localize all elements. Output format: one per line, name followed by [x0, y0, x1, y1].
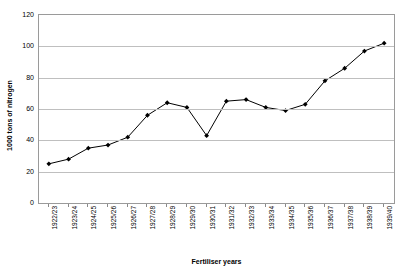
x-axis-tick-mark: [87, 204, 88, 207]
gridline: [39, 46, 394, 47]
x-axis-tick-label: 1926/27: [130, 206, 138, 254]
x-axis-tick-mark: [344, 204, 345, 207]
x-axis-tick-label: 1928/29: [169, 206, 177, 254]
x-axis-tick-label: 1938/39: [366, 206, 374, 254]
data-point-marker: [244, 97, 249, 102]
x-axis-tick-label: 1936/37: [327, 206, 335, 254]
x-axis-tick-mark: [363, 204, 364, 207]
x-axis-tick-mark: [304, 204, 305, 207]
x-axis-tick-label: 1934/35: [288, 206, 296, 254]
x-axis-title: Fertiliser years: [38, 258, 395, 265]
x-axis-tick-label: 1930/31: [209, 206, 217, 254]
gridline: [39, 140, 394, 141]
x-axis-tick-label: 1932/33: [248, 206, 256, 254]
series-line: [49, 43, 384, 164]
data-point-marker: [66, 157, 71, 162]
data-point-marker: [224, 99, 229, 104]
x-axis-tick-mark: [166, 204, 167, 207]
y-axis-tick-label: 20: [14, 167, 34, 174]
x-axis-tick-mark: [265, 204, 266, 207]
data-point-marker: [165, 100, 170, 105]
x-axis-tick-label: 1923/24: [71, 206, 79, 254]
x-axis-tick-mark: [146, 204, 147, 207]
data-point-marker: [86, 146, 91, 151]
x-axis-tick-label: 1935/36: [307, 206, 315, 254]
y-axis-title-text: 1000 tons of nitrogen: [6, 80, 13, 151]
plot-area: [38, 14, 395, 204]
y-axis-tick-label: 40: [14, 136, 34, 143]
gridline: [39, 172, 394, 173]
x-axis-tick-label: 1927/28: [149, 206, 157, 254]
x-axis-tick-label: 1937/38: [347, 206, 355, 254]
y-axis-tick-label: 120: [14, 11, 34, 18]
x-axis-tick-label: 1925/26: [110, 206, 118, 254]
data-point-marker: [382, 41, 387, 46]
x-axis-tick-mark: [324, 204, 325, 207]
data-point-marker: [46, 161, 51, 166]
x-axis-tick-mark: [68, 204, 69, 207]
x-axis-tick-mark: [107, 204, 108, 207]
y-axis-tick-label: 0: [14, 199, 34, 206]
gridline: [39, 109, 394, 110]
x-axis-tick-mark: [225, 204, 226, 207]
x-axis-tick-label: 1922/23: [51, 206, 59, 254]
x-axis-tick-mark: [383, 204, 384, 207]
x-axis-tick-labels: 1922/231923/241924/251925/261926/271927/…: [38, 208, 395, 256]
y-axis-tick-labels: 020406080100120: [16, 14, 36, 204]
x-axis-tick-mark: [285, 204, 286, 207]
x-axis-tick-mark: [48, 204, 49, 207]
y-axis-tick-label: 80: [14, 73, 34, 80]
x-axis-tick-label: 1939/40: [386, 206, 394, 254]
x-axis-tick-label: 1931/32: [228, 206, 236, 254]
x-axis-tick-mark: [127, 204, 128, 207]
x-axis-tick-label: 1929/30: [189, 206, 197, 254]
x-axis-tick-label: 1924/25: [90, 206, 98, 254]
y-axis-tick-label: 100: [14, 42, 34, 49]
x-axis-tick-mark: [206, 204, 207, 207]
y-axis-tick-label: 60: [14, 105, 34, 112]
x-axis-tick-mark: [245, 204, 246, 207]
x-axis-tick-label: 1933/34: [268, 206, 276, 254]
line-chart: 1000 tons of nitrogen 020406080100120 19…: [0, 0, 418, 277]
x-axis-tick-mark: [186, 204, 187, 207]
data-point-marker: [106, 143, 111, 148]
gridline: [39, 78, 394, 79]
